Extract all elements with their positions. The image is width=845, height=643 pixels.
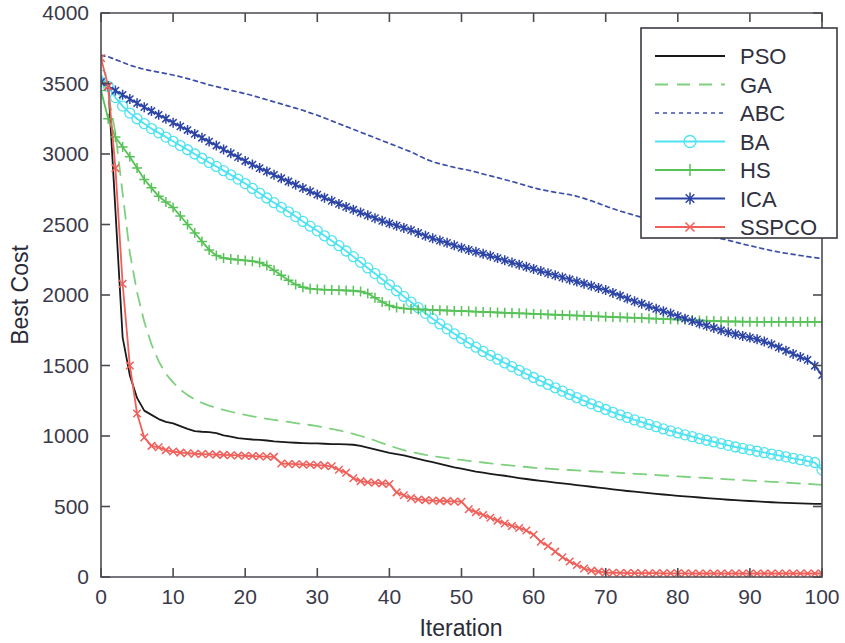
y-tick-label: 1000 xyxy=(42,424,89,447)
x-tick-label: 60 xyxy=(522,585,545,608)
y-tick-label: 2500 xyxy=(42,213,89,236)
chart-canvas: 0102030405060708090100 05001000150020002… xyxy=(0,0,845,643)
x-tick-label: 80 xyxy=(666,585,689,608)
x-axis-title: Iteration xyxy=(419,615,502,641)
legend-label-pso: PSO xyxy=(740,44,786,69)
convergence-chart-figure: 0102030405060708090100 05001000150020002… xyxy=(0,0,845,643)
legend-box xyxy=(641,28,837,238)
y-axis-tick-labels: 05001000150020002500300035004000 xyxy=(42,1,89,588)
x-tick-label: 20 xyxy=(234,585,257,608)
y-tick-label: 3500 xyxy=(42,72,89,95)
x-tick-label: 50 xyxy=(450,585,473,608)
y-axis-title: Best Cost xyxy=(7,245,33,345)
x-tick-label: 30 xyxy=(306,585,329,608)
x-tick-label: 40 xyxy=(378,585,401,608)
legend-label-hs: HS xyxy=(740,158,771,183)
y-tick-label: 1500 xyxy=(42,354,89,377)
legend-label-abc: ABC xyxy=(740,101,785,126)
x-tick-label: 90 xyxy=(738,585,761,608)
x-tick-label: 70 xyxy=(594,585,617,608)
y-tick-label: 500 xyxy=(54,495,89,518)
y-tick-label: 0 xyxy=(77,565,89,588)
x-tick-label: 0 xyxy=(95,585,107,608)
y-tick-label: 2000 xyxy=(42,283,89,306)
x-tick-label: 100 xyxy=(804,585,839,608)
x-axis-tick-labels: 0102030405060708090100 xyxy=(95,585,839,608)
legend: PSOGAABCBAHSICASSPCO xyxy=(641,28,837,240)
x-tick-label: 10 xyxy=(161,585,184,608)
legend-label-ica: ICA xyxy=(740,187,777,212)
legend-label-ga: GA xyxy=(740,73,772,98)
legend-label-sspco: SSPCO xyxy=(740,215,817,240)
legend-label-ba: BA xyxy=(740,130,770,155)
y-tick-label: 4000 xyxy=(42,1,89,24)
y-tick-label: 3000 xyxy=(42,142,89,165)
